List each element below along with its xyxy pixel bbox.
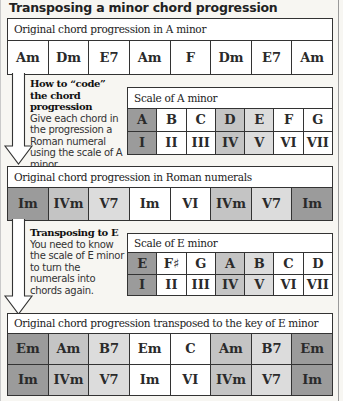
- numeral-cell: VI: [274, 132, 303, 154]
- step2-text: You need to know the scale of E minor to…: [30, 239, 124, 296]
- transposed-progression-header: Original chord progression transposed to…: [8, 314, 332, 334]
- roman-numerals-box: Original chord progression in Roman nume…: [7, 166, 333, 221]
- note-cell: E: [128, 253, 157, 274]
- scale-a-notes-row: A B C D E F G: [128, 109, 332, 131]
- chord-cell: E7: [252, 41, 293, 74]
- numeral-cell: VI: [171, 188, 212, 220]
- scale-e-minor-box: Scale of E minor E F♯ G A B C D I II III…: [127, 233, 333, 296]
- original-progression-header: Original chord progression in A minor: [8, 19, 332, 41]
- step1-text: Give each chord in the progression a Rom…: [30, 113, 122, 170]
- scale-a-minor-box: Scale of A minor A B C D E F G I II III …: [127, 87, 333, 155]
- chord-cell: Am: [292, 41, 332, 74]
- scale-e-numerals-row: I II III IV V VI VII: [128, 274, 332, 295]
- numeral-cell: VII: [304, 275, 332, 295]
- note-cell: D: [304, 253, 332, 274]
- scale-a-numerals-row: I II III IV V VI VII: [128, 131, 332, 154]
- note-cell: A: [128, 109, 157, 131]
- note-cell: F: [274, 109, 303, 131]
- transposed-progression-box: Original chord progression transposed to…: [7, 313, 333, 396]
- numeral-cell: I: [128, 132, 157, 154]
- note-cell: B: [245, 253, 274, 274]
- numeral-cell: III: [187, 132, 216, 154]
- chord-cell: Am: [130, 41, 171, 74]
- chord-cell: Am: [49, 334, 90, 364]
- numeral-cell: III: [187, 275, 216, 295]
- numeral-cell: IV: [216, 275, 245, 295]
- numeral-cell: I: [128, 275, 157, 295]
- numeral-cell: V7: [89, 188, 130, 220]
- scale-e-notes-row: E F♯ G A B C D: [128, 253, 332, 274]
- numeral-cell: Im: [130, 188, 171, 220]
- chord-cell: Em: [8, 334, 49, 364]
- numeral-cell: V: [245, 275, 274, 295]
- chord-cell: C: [171, 334, 212, 364]
- step1-note: How to “code” the chord progression Give…: [30, 78, 124, 170]
- note-cell: G: [304, 109, 332, 131]
- numeral-cell: II: [157, 275, 186, 295]
- numeral-cell: V7: [252, 365, 293, 395]
- numeral-cell: V7: [89, 365, 130, 395]
- chord-cell: Em: [130, 334, 171, 364]
- chord-cell: B7: [252, 334, 293, 364]
- numeral-cell: Im: [130, 365, 171, 395]
- chord-cell: F: [171, 41, 212, 74]
- note-cell: D: [216, 109, 245, 131]
- numeral-cell: Im: [8, 365, 49, 395]
- note-cell: B: [157, 109, 186, 131]
- roman-numerals-row: Im IVm V7 Im VI IVm V7 Im: [8, 188, 332, 220]
- chord-cell: Am: [8, 41, 49, 74]
- numeral-cell: II: [157, 132, 186, 154]
- chord-cell: E7: [89, 41, 130, 74]
- transposed-chord-row: Em Am B7 Em C Am B7 Em: [8, 334, 332, 364]
- numeral-cell: Im: [292, 188, 332, 220]
- numeral-cell: V7: [252, 188, 293, 220]
- note-cell: F♯: [157, 253, 186, 274]
- numeral-cell: VII: [304, 132, 332, 154]
- note-cell: E: [245, 109, 274, 131]
- numeral-cell: VI: [171, 365, 212, 395]
- numeral-cell: VI: [274, 275, 303, 295]
- step2-heading: Transposing to E: [30, 227, 118, 238]
- chord-cell: Dm: [211, 41, 252, 74]
- numeral-cell: IVm: [211, 188, 252, 220]
- note-cell: C: [274, 253, 303, 274]
- original-progression-box: Original chord progression in A minor Am…: [7, 18, 333, 75]
- numeral-cell: V: [245, 132, 274, 154]
- original-chord-row: Am Dm E7 Am F Dm E7 Am: [8, 41, 332, 74]
- numeral-cell: IVm: [49, 365, 90, 395]
- page-frame-left: [0, 0, 1, 401]
- page-frame-right: [338, 0, 339, 401]
- step2-note: Transposing to E You need to know the sc…: [30, 227, 124, 296]
- scale-a-minor-header: Scale of A minor: [128, 88, 332, 109]
- numeral-cell: Im: [8, 188, 49, 220]
- note-cell: C: [187, 109, 216, 131]
- numeral-cell: IVm: [49, 188, 90, 220]
- numeral-cell: IV: [216, 132, 245, 154]
- note-cell: A: [216, 253, 245, 274]
- chord-cell: Em: [292, 334, 332, 364]
- note-cell: G: [187, 253, 216, 274]
- chord-cell: Am: [211, 334, 252, 364]
- chord-cell: B7: [89, 334, 130, 364]
- chord-cell: Dm: [49, 41, 90, 74]
- step1-heading: How to “code” the chord progression: [30, 78, 105, 112]
- transposed-numeral-row: Im IVm V7 Im VI IVm V7 Im: [8, 364, 332, 395]
- diagram-title: Transposing a minor chord progression: [9, 0, 278, 15]
- scale-e-minor-header: Scale of E minor: [128, 234, 332, 253]
- numeral-cell: IVm: [211, 365, 252, 395]
- roman-numerals-header: Original chord progression in Roman nume…: [8, 167, 332, 188]
- numeral-cell: Im: [292, 365, 332, 395]
